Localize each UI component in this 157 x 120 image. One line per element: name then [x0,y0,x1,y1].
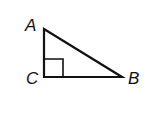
triangle-abc [44,29,122,77]
vertex-label-a: A [24,16,36,35]
vertex-label-b: B [128,69,139,88]
vertex-label-c: C [26,69,39,88]
right-triangle-diagram: A C B [0,0,157,120]
right-angle-marker [44,59,63,77]
